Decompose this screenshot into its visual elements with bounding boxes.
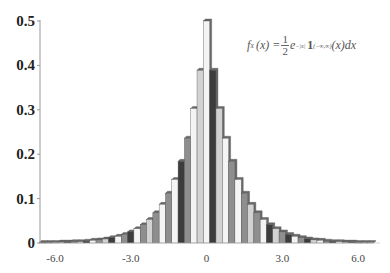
formula-tail: (x)dx: [331, 38, 356, 53]
y-tick-label: 0.5: [16, 13, 35, 29]
formula-fraction: 1 2: [281, 34, 289, 57]
x-tick-label: 0: [204, 252, 210, 264]
y-tick-label: 0.3: [16, 102, 35, 118]
formula-lhs-subscript: X: [250, 43, 254, 49]
y-tick-label: 0: [28, 235, 36, 251]
density-formula-annotation: fX (x) = 1 2 e−|x| 1(−∞,∞) (x)dx: [247, 34, 356, 57]
y-tick-label: 0.2: [16, 146, 35, 162]
formula-exponent: −|x|: [295, 43, 305, 49]
x-tick-label: 6.0: [351, 252, 365, 264]
y-tick-label: 0.1: [16, 191, 35, 207]
x-tick-label: 3.0: [275, 252, 289, 264]
formula-arg: (x) =: [256, 38, 280, 53]
y-axis-ticks: 00.10.20.30.40.5: [16, 13, 40, 251]
x-tick-label: -3.0: [122, 252, 140, 264]
x-axis-ticks: -6.0-3.003.06.0: [46, 252, 365, 264]
y-tick-label: 0.4: [16, 57, 35, 73]
x-tick-label: -6.0: [46, 252, 64, 264]
formula-denominator: 2: [282, 46, 288, 57]
formula-indicator-subscript: (−∞,∞): [313, 43, 331, 49]
